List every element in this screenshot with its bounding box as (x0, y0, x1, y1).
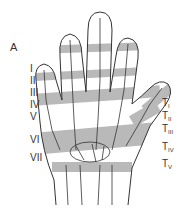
thumb-zone-label-TIV: TIV (162, 142, 174, 153)
thumb-zone-label-TV: TV (162, 159, 172, 170)
zone-label-VII: VII (30, 153, 42, 163)
hand-zone-diagram: A I II III IV V VI VII TI TII TIII TIV T… (0, 0, 184, 217)
thumb-zone-label-TIII: TIII (162, 124, 173, 135)
zone-label-IV: IV (30, 100, 39, 110)
panel-label: A (10, 42, 17, 53)
zone-label-II: II (30, 76, 36, 86)
zone-label-III: III (30, 88, 38, 98)
hand-illustration (0, 0, 184, 217)
thumb-zone-label-TII: TII (162, 111, 171, 122)
zone-label-V: V (30, 112, 37, 122)
zone-label-VI: VI (30, 135, 39, 145)
zone-label-I: I (30, 64, 33, 74)
thumb-zone-label-TI: TI (162, 98, 170, 109)
